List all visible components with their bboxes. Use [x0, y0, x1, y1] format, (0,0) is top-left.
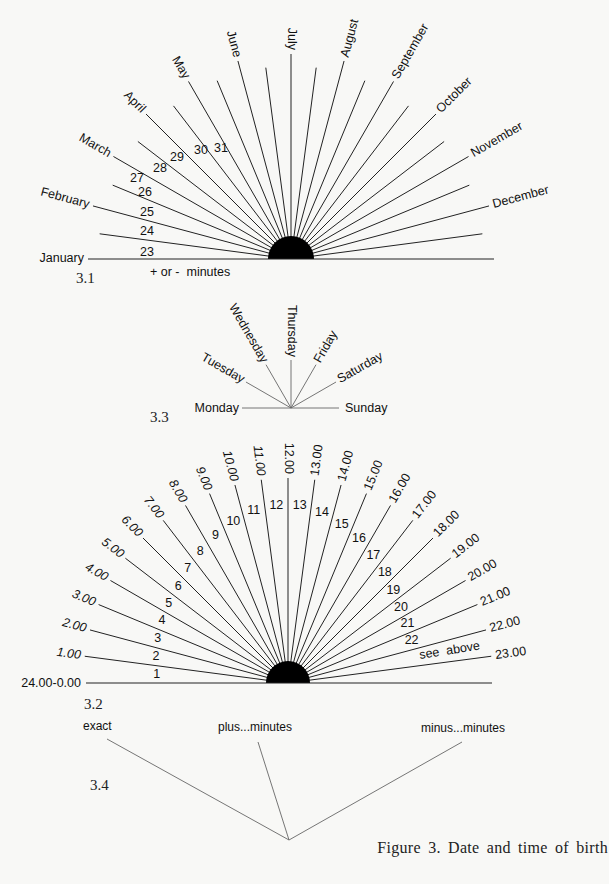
hour-ray [288, 581, 466, 684]
sector-number: 2 [153, 649, 160, 663]
day-number: 28 [153, 161, 167, 175]
hour-label: 18.00 [430, 508, 462, 540]
month-ray [217, 81, 291, 259]
hour-label: 23.00 [494, 644, 527, 662]
month-ray [291, 185, 469, 259]
sector-number: 4 [159, 613, 166, 627]
month-label: July [285, 28, 299, 51]
hour-ray [210, 494, 288, 683]
sector-number: 7 [184, 561, 191, 575]
sector-number: 3 [154, 631, 161, 645]
day-number: 29 [170, 150, 184, 164]
day-number: 25 [140, 205, 154, 219]
sector-number: 1 [153, 667, 160, 681]
sector-number: 19 [386, 583, 400, 597]
hour-ray [110, 581, 288, 684]
month-label: December [491, 183, 550, 211]
panel-number-3-2: 3.2 [84, 696, 103, 712]
hour-ray [85, 656, 288, 683]
weekday-label: Friday [311, 328, 341, 366]
hour-ray [186, 505, 289, 683]
panel-number-3-4: 3.4 [90, 777, 109, 793]
hour-label: 20.00 [465, 556, 499, 584]
hour-label: 16.00 [386, 471, 414, 505]
panel-3-1-month-day-dial: JanuaryFebruaryMarchAprilMayJuneJulyAugu… [39, 17, 550, 286]
weekday-label: Wednesday [226, 301, 271, 366]
hour-label: 5.00 [99, 535, 127, 561]
month-label: August [338, 17, 362, 59]
day-numbers: 232425262728293031 [130, 141, 228, 259]
weekday-ray [246, 382, 291, 408]
hub-mask [266, 259, 316, 284]
month-ray [291, 114, 436, 259]
option-plus-minutes: plus...minutes [218, 720, 292, 734]
hour-label: 2.00 [60, 615, 88, 635]
hour-ray [288, 494, 366, 683]
sector-number: 22 [405, 633, 419, 647]
month-ray [238, 61, 291, 259]
sector-number: 14 [315, 505, 329, 519]
month-ray [146, 114, 291, 259]
month-ray [291, 61, 344, 259]
month-ray [93, 206, 291, 259]
hour-label: 13.00 [308, 444, 326, 477]
hour-label: 14.00 [335, 449, 357, 483]
branch-minus [289, 742, 462, 840]
hour-label: 22.00 [488, 613, 522, 635]
month-ray [291, 206, 489, 259]
sector-number: 11 [247, 503, 260, 517]
hub-mask [264, 683, 312, 707]
weekday-label: Monday [195, 401, 240, 415]
weekday-label: Tuesday [199, 350, 248, 386]
sector-number: 5 [165, 596, 172, 610]
weekday-ray [291, 365, 316, 408]
hour-label: 11.00 [251, 445, 269, 477]
sector-number: 9 [212, 528, 219, 542]
day-number: 24 [140, 224, 154, 238]
weekday-ray [291, 382, 336, 408]
plus-minus-minutes-note: + or - minutes [150, 265, 230, 279]
sector-number: 18 [378, 565, 392, 579]
hour-label: 12.00 [282, 443, 296, 474]
hour-label: 4.00 [83, 560, 111, 584]
sector-number: 15 [335, 517, 349, 531]
day-number: 31 [214, 141, 228, 155]
month-label: November [468, 119, 525, 160]
hour-ray [235, 485, 288, 683]
month-label: April [121, 88, 149, 116]
option-minus-minutes: minus...minutes [421, 721, 505, 735]
hour-label: 6.00 [119, 513, 146, 540]
hour-ray [99, 605, 288, 683]
sector-number: 8 [197, 544, 204, 558]
hour-label: 3.00 [70, 587, 98, 609]
month-label: February [39, 185, 92, 212]
panel-number-3-1: 3.1 [76, 270, 95, 286]
option-exact: exact [83, 719, 112, 733]
month-label: March [77, 130, 114, 160]
sector-numbers: 12345678910111213141516171819202122see a… [153, 498, 481, 681]
panel-3-2-hour-dial: 24.00-0.001.002.003.004.005.006.007.008.… [21, 443, 527, 712]
weekday-rays [242, 360, 339, 408]
day-number: 26 [138, 185, 152, 199]
hour-ray [143, 538, 288, 683]
month-ray [291, 81, 394, 259]
hour-ray [288, 538, 433, 683]
month-label: January [40, 251, 85, 265]
hour-label: 8.00 [166, 477, 190, 505]
sector-number: 10 [226, 514, 240, 528]
sector-number: 17 [366, 548, 380, 562]
month-label: May [169, 54, 193, 82]
weekday-ray [266, 365, 291, 408]
figure-3-date-time-of-birth: JanuaryFebruaryMarchAprilMayJuneJulyAugu… [0, 0, 609, 884]
weekday-label: Saturday [335, 348, 386, 386]
month-ray [291, 157, 469, 260]
month-label: October [433, 74, 474, 115]
hour-label: 1.00 [56, 645, 82, 662]
hour-ray [288, 630, 486, 683]
panel-3-4-precision-tree: exact plus...minutes minus...minutes 3.4 [83, 719, 505, 840]
sector-number: 21 [400, 616, 414, 630]
hour-label: 7.00 [141, 493, 167, 521]
day-number: 27 [130, 171, 144, 185]
weekday-label: Sunday [345, 401, 388, 415]
hour-label: 19.00 [449, 531, 482, 561]
